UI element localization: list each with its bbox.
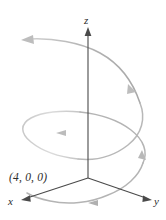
start-point-label: (4, 0, 0) [9,172,47,184]
y-axis-label: y [154,196,159,207]
helix-direction-arrow-middle [56,130,66,136]
z-axis-label: z [84,15,88,26]
x-axis-arrowhead [21,195,31,202]
helix-terminal-arrow [21,35,34,44]
figure-canvas: z x y (4, 0, 0) [0,0,166,220]
z-axis-arrowhead [85,27,92,36]
x-axis-label: x [8,196,13,207]
helix-diagram-svg [0,0,166,220]
y-axis-line [88,178,146,198]
helix-segment-middle-back [23,111,80,159]
helix-segment-top [30,39,140,103]
y-axis-arrowhead [142,195,152,202]
